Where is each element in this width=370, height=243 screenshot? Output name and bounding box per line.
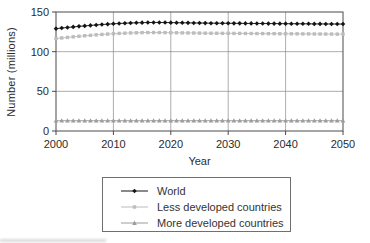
y-tick-label: 50 xyxy=(37,85,49,97)
legend-label-world: World xyxy=(157,185,186,197)
legend-item-less-developed: Less developed countries xyxy=(121,199,290,215)
legend-item-world: World xyxy=(121,183,290,199)
y-tick-label: 150 xyxy=(31,6,49,18)
x-tick-label: 2000 xyxy=(44,138,68,150)
line-chart-plot: 050100150200020102020203020402050 xyxy=(0,0,370,175)
series-world xyxy=(54,20,346,31)
plot-border xyxy=(56,12,343,131)
y-tick-label: 0 xyxy=(43,125,49,137)
x-tick-label: 2040 xyxy=(273,138,297,150)
x-axis-title: Year xyxy=(56,155,343,167)
x-tick-label: 2030 xyxy=(216,138,240,150)
x-tick-label: 2050 xyxy=(331,138,355,150)
legend-label-more-developed: More developed countries xyxy=(157,217,284,229)
series-less-developed-countries xyxy=(54,31,344,40)
y-tick-label: 100 xyxy=(31,46,49,58)
more-developed-series-marker-icon xyxy=(121,218,148,228)
x-tick-label: 2010 xyxy=(101,138,125,150)
page-scan-artifact xyxy=(0,239,106,242)
series-more-developed-countries xyxy=(54,118,346,122)
less-developed-series-marker-icon xyxy=(121,202,148,212)
world-series-marker-icon xyxy=(121,186,148,196)
legend-label-less-developed: Less developed countries xyxy=(157,201,282,213)
chart-legend: World Less developed countries More deve… xyxy=(102,177,291,232)
births-projection-figure: 050100150200020102020203020402050 Number… xyxy=(0,0,370,243)
legend-item-more-developed: More developed countries xyxy=(121,215,290,231)
gridlines xyxy=(56,12,343,131)
y-axis-title: Number (millions) xyxy=(5,17,17,127)
x-tick-label: 2020 xyxy=(159,138,183,150)
